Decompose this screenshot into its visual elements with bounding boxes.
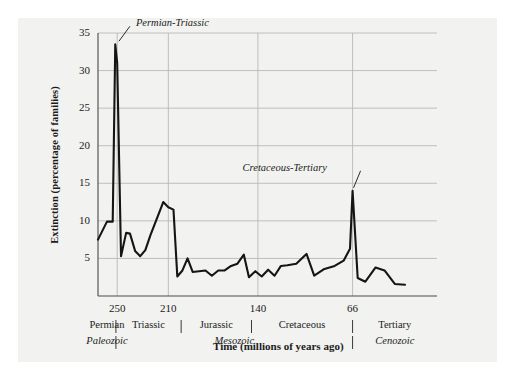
y-tick-30: 30 (68, 64, 90, 76)
era-label-cenozoic: Cenozoic (335, 335, 455, 346)
y-tick-35: 35 (68, 26, 90, 38)
y-tick-5: 5 (68, 251, 90, 263)
x-tick-140: 140 (238, 302, 278, 314)
y-tick-25: 25 (68, 101, 90, 113)
x-tick-66: 66 (333, 302, 373, 314)
annotation-cretaceous-tertiary: Cretaceous-Tertiary (243, 162, 327, 173)
period-label-tertiary: Tertiary (335, 319, 455, 330)
x-tick-250: 250 (97, 302, 137, 314)
y-tick-10: 10 (68, 214, 90, 226)
y-tick-20: 20 (68, 139, 90, 151)
y-tick-15: 15 (68, 176, 90, 188)
era-label-paleozoic: Paleozoic (47, 335, 167, 346)
x-tick-210: 210 (148, 302, 188, 314)
y-axis-label: Extinction (percentage of families) (49, 62, 60, 268)
figure-container: Extinction (percentage of families) Time… (0, 0, 515, 380)
era-label-mesozoic: Mesozoic (174, 335, 294, 346)
annotation-permian-triassic: Permian-Triassic (136, 17, 209, 28)
